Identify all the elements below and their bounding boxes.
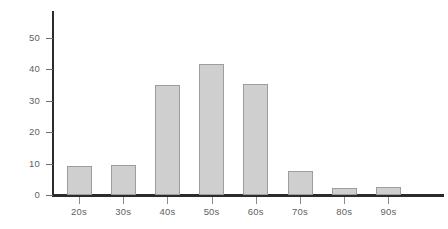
x-axis-tick [167, 197, 168, 204]
y-axis-tick [46, 164, 53, 165]
y-axis-tick [46, 38, 53, 39]
y-axis-tick-label: 10 [10, 159, 40, 169]
bar-20s [67, 166, 92, 195]
y-axis-line [52, 11, 54, 196]
y-axis-tick [46, 195, 53, 196]
x-axis-tick [123, 197, 124, 204]
x-axis-tick [388, 197, 389, 204]
y-axis-tick-label: 40 [10, 64, 40, 74]
x-axis-tick-label: 40s [145, 207, 189, 217]
x-axis-tick-label: 60s [234, 207, 278, 217]
x-axis-tick-label: 90s [366, 207, 410, 217]
bar-40s [155, 85, 180, 195]
x-axis-tick [344, 197, 345, 204]
x-axis-tick-label: 70s [278, 207, 322, 217]
y-axis-tick-label: 50 [10, 33, 40, 43]
bar-90s [376, 187, 401, 195]
x-axis-tick [79, 197, 80, 204]
bar-60s [243, 84, 268, 195]
y-axis-tick [46, 101, 53, 102]
bar-30s [111, 165, 136, 195]
bar-70s [288, 171, 313, 195]
y-axis-tick-label: 30 [10, 96, 40, 106]
x-axis-tick [256, 197, 257, 204]
bar-50s [199, 64, 224, 195]
x-axis-tick [300, 197, 301, 204]
y-axis-tick-label: 0 [10, 190, 40, 200]
y-axis-tick [46, 69, 53, 70]
x-axis-tick [212, 197, 213, 204]
bar-chart: 01020304050 20s30s40s50s60s70s80s90s [0, 0, 448, 229]
y-axis-tick-label: 20 [10, 127, 40, 137]
x-axis-tick-label: 80s [322, 207, 366, 217]
x-axis-tick-label: 30s [101, 207, 145, 217]
y-axis-tick [46, 132, 53, 133]
bar-80s [332, 188, 357, 195]
x-axis-tick-label: 20s [57, 207, 101, 217]
x-axis-tick-label: 50s [190, 207, 234, 217]
